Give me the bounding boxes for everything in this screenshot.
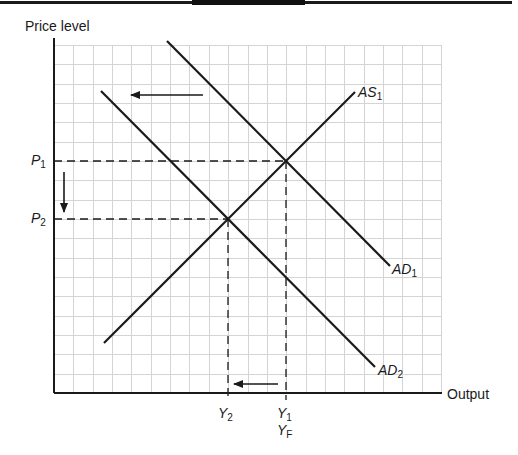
ad1-label: AD1: [392, 262, 417, 279]
ad2-curve: [101, 91, 375, 367]
diagram-canvas: [0, 0, 518, 455]
yf-label: YF: [277, 423, 292, 440]
p1-label: P1: [31, 153, 46, 170]
y-axis-label: Price level: [25, 19, 90, 33]
p2-label: P2: [31, 211, 46, 228]
y2-label: Y2: [218, 406, 233, 423]
as1-label: AS1: [358, 85, 382, 102]
y1-label: Y1: [277, 406, 292, 423]
x-axis-label: Output: [447, 387, 489, 401]
ad2-label: AD2: [378, 363, 403, 380]
as1-curve: [104, 92, 355, 343]
ad1-curve: [167, 41, 390, 266]
